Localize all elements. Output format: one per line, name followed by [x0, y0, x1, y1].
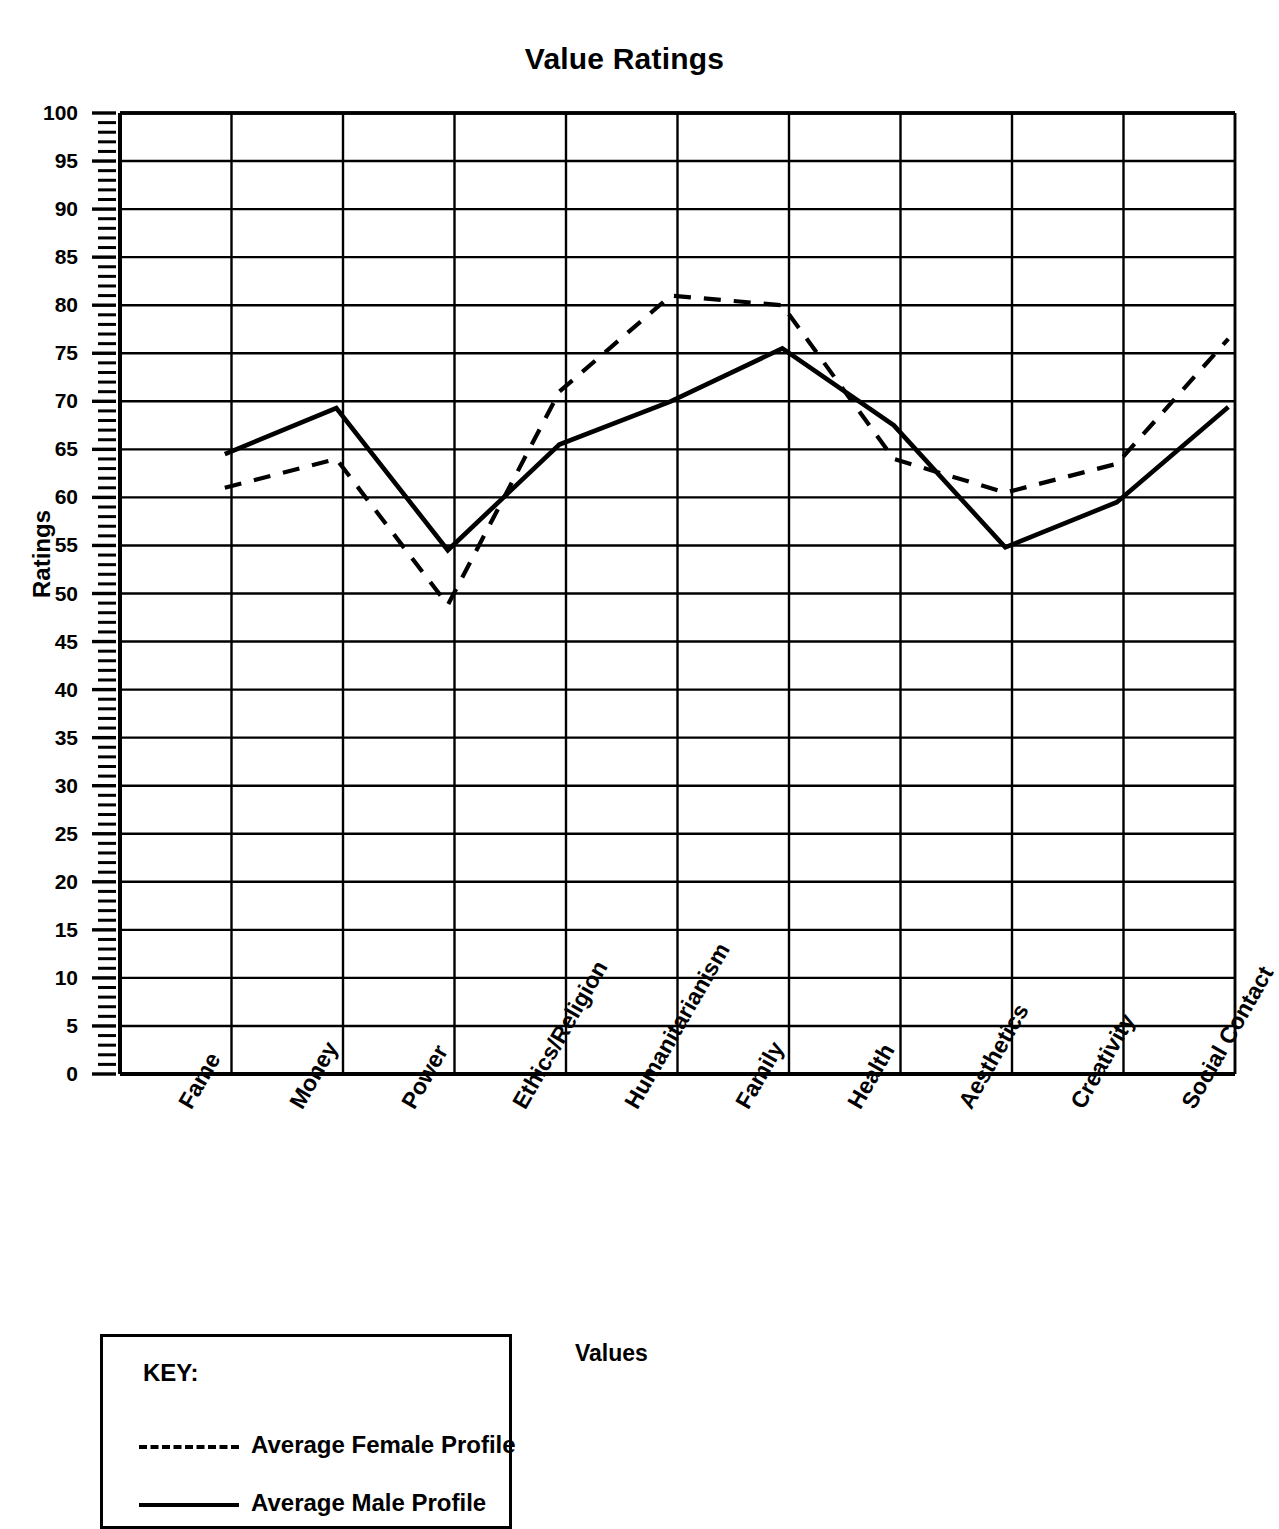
y-tick-label: 95	[14, 150, 78, 171]
y-tick-label: 55	[14, 534, 78, 555]
y-tick-label: 60	[14, 486, 78, 507]
y-tick-label: 45	[14, 631, 78, 652]
y-tick-label: 20	[14, 871, 78, 892]
y-tick-label: 5	[14, 1015, 78, 1036]
axis-ticks	[92, 113, 116, 1074]
y-tick-label: 70	[14, 390, 78, 411]
y-tick-label: 35	[14, 727, 78, 748]
y-tick-label: 40	[14, 679, 78, 700]
gridlines	[120, 113, 1235, 1074]
solid-line-icon	[139, 1503, 239, 1507]
legend-item-label: Average Female Profile	[251, 1431, 516, 1459]
y-tick-label: 50	[14, 583, 78, 604]
y-tick-label: 10	[14, 967, 78, 988]
legend-title: KEY:	[143, 1359, 199, 1387]
y-tick-label: 15	[14, 919, 78, 940]
legend-key-box: KEY: Average Female Profile Average Male…	[100, 1334, 512, 1529]
y-tick-label: 65	[14, 438, 78, 459]
y-tick-label: 75	[14, 342, 78, 363]
y-tick-label: 80	[14, 294, 78, 315]
y-tick-label: 100	[14, 102, 78, 123]
y-tick-label: 85	[14, 246, 78, 267]
y-tick-label: 0	[14, 1063, 78, 1084]
legend-item-label: Average Male Profile	[251, 1489, 486, 1517]
dashed-line-icon	[139, 1445, 239, 1449]
y-tick-label: 90	[14, 198, 78, 219]
y-tick-label: 30	[14, 775, 78, 796]
y-tick-label: 25	[14, 823, 78, 844]
